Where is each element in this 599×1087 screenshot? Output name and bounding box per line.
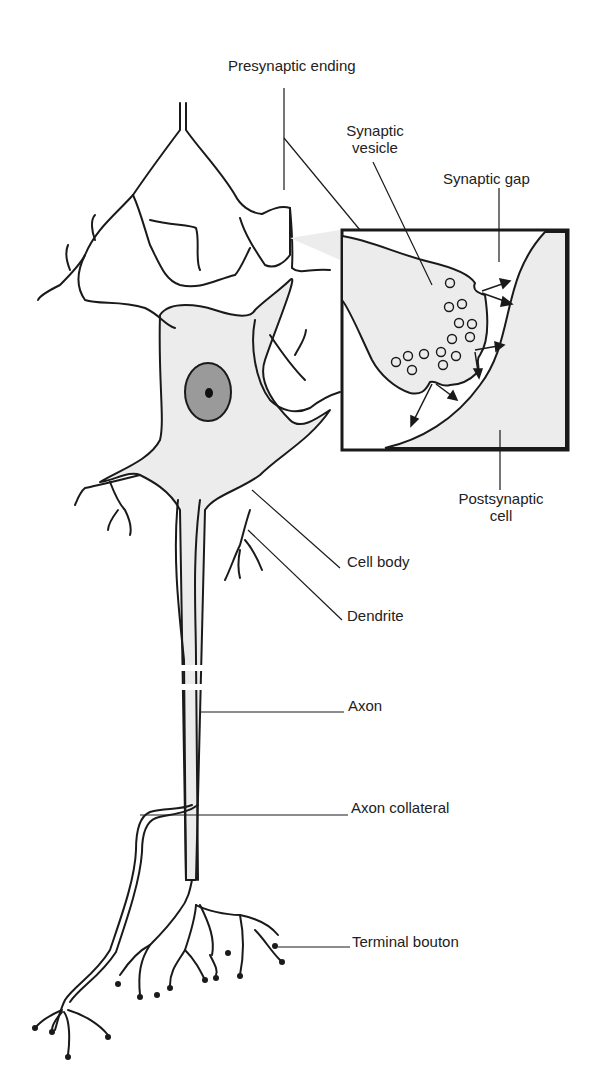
nucleolus: [205, 388, 213, 398]
synapse-inset: [290, 230, 568, 450]
neuron-body: [38, 103, 340, 880]
label-synaptic-vesicle: Synaptic vesicle: [335, 122, 415, 156]
label-synaptic-vesicle-line1: Synaptic: [335, 122, 415, 139]
label-postsynaptic-cell-line1: Postsynaptic: [448, 490, 554, 507]
label-axon: Axon: [348, 697, 382, 714]
label-postsynaptic-cell: Postsynaptic cell: [448, 490, 554, 524]
neuron-diagram: [0, 0, 599, 1087]
label-terminal-bouton: Terminal bouton: [352, 933, 459, 950]
label-postsynaptic-cell-line2: cell: [448, 507, 554, 524]
label-cell-body: Cell body: [347, 553, 410, 570]
label-axon-collateral: Axon collateral: [351, 799, 449, 816]
label-dendrite: Dendrite: [347, 607, 404, 624]
label-synaptic-gap: Synaptic gap: [443, 170, 530, 187]
label-synaptic-vesicle-line2: vesicle: [335, 139, 415, 156]
label-presynaptic-ending: Presynaptic ending: [228, 57, 356, 74]
